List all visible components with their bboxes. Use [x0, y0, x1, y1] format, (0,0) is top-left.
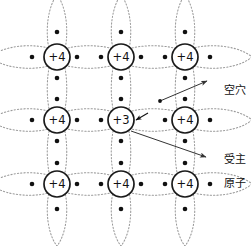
atom-a22: +4: [172, 171, 198, 197]
atom-a00: +4: [44, 44, 70, 70]
atom-charge-label: +4: [49, 113, 66, 127]
atom-a01: +4: [44, 107, 70, 133]
electron-dot: [163, 182, 168, 187]
electron-dot: [55, 97, 60, 102]
electron-dot: [208, 55, 213, 60]
electron-dot: [99, 55, 104, 60]
electron-dot: [55, 207, 60, 212]
electron-dot: [119, 76, 124, 81]
electron-dot: [119, 30, 124, 35]
label-hole-text: 空穴: [224, 84, 246, 97]
electron-dot: [55, 161, 60, 166]
lattice-diagram: +4+4+4+4+3+4+4+4+4: [0, 0, 251, 246]
electron-dot: [55, 76, 60, 81]
atom-a21: +4: [172, 107, 198, 133]
electron-dot: [75, 55, 80, 60]
electron-dot: [99, 182, 104, 187]
electron-dot: [183, 30, 188, 35]
atom-charge-label: +3: [113, 113, 130, 127]
electron-dot: [30, 55, 35, 60]
hole-indicator-arrow: [136, 113, 148, 120]
atom-charge-label: +4: [49, 50, 66, 64]
atom-cores: +4+4+4+4+3+4+4+4+4: [44, 44, 198, 197]
atom-a20: +4: [172, 44, 198, 70]
electron-dot: [75, 118, 80, 123]
atom-charge-label: +4: [113, 50, 130, 64]
atom-a02: +4: [44, 171, 70, 197]
electron-dot: [163, 55, 168, 60]
electron-dot: [119, 207, 124, 212]
label-acceptor-atom: 受主 原子: [210, 142, 246, 202]
electron-dot: [183, 139, 188, 144]
leader-origin-dot: [158, 99, 162, 103]
electron-dot: [30, 182, 35, 187]
atom-a11: +3: [108, 107, 134, 133]
atom-charge-label: +4: [49, 177, 66, 191]
atom-charge-label: +4: [177, 113, 194, 127]
figure-canvas: +4+4+4+4+3+4+4+4+4 空穴 受主 原子: [0, 0, 251, 246]
electron-dot: [55, 139, 60, 144]
electron-dot: [183, 161, 188, 166]
electron-dot: [139, 182, 144, 187]
electron-dot: [30, 118, 35, 123]
electron-dot: [139, 55, 144, 60]
atom-charge-label: +4: [177, 50, 194, 64]
electron-dot: [119, 97, 124, 102]
electron-dot: [99, 118, 104, 123]
label-acceptor-line2: 原子: [224, 177, 246, 190]
atom-charge-label: +4: [113, 177, 130, 191]
electron-dot: [55, 30, 60, 35]
electron-dot: [119, 139, 124, 144]
electron-dot: [119, 161, 124, 166]
label-hole: 空穴: [210, 73, 246, 109]
figure-caption: [0, 231, 251, 246]
label-acceptor-line1: 受主: [224, 153, 246, 166]
atom-charge-label: +4: [177, 177, 194, 191]
electron-dot: [75, 182, 80, 187]
electron-dot: [208, 118, 213, 123]
electron-dot: [183, 76, 188, 81]
electron-dot: [163, 118, 168, 123]
electron-dot: [183, 97, 188, 102]
atom-a12: +4: [108, 171, 134, 197]
electron-dot: [183, 207, 188, 212]
atom-a10: +4: [108, 44, 134, 70]
